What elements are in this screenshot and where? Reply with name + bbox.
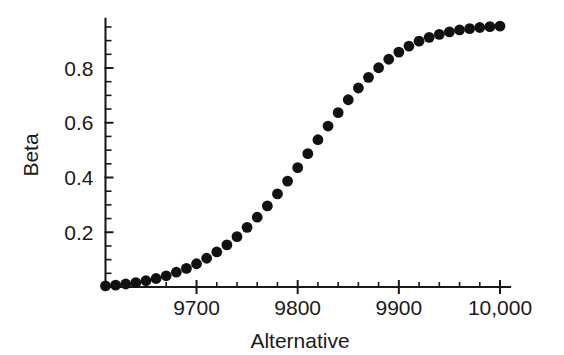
scatter-plot-svg: 97009800990010,000 0.20.40.60.8 Alternat… [0,0,564,355]
data-point [383,54,394,65]
data-point [120,279,131,290]
data-point [333,107,344,118]
data-point [282,176,293,187]
data-point [424,32,435,43]
y-axis-tick-label: 0.2 [64,221,93,244]
data-point [232,231,243,242]
data-point [444,26,455,37]
y-axis-tick-label: 0.4 [64,166,94,189]
y-axis-title: Beta [19,133,42,177]
data-point [110,280,121,291]
data-point-series [100,21,505,292]
data-point [252,212,263,223]
data-point [221,239,232,250]
data-point [353,83,364,94]
x-axis-tick-labels: 97009800990010,000 [173,296,532,319]
data-point [100,281,111,292]
y-axis-tick-label: 0.8 [64,57,93,80]
data-point [161,270,172,281]
y-axis-tick-labels: 0.20.40.60.8 [64,57,94,244]
data-point [211,247,222,258]
x-axis-title: Alternative [250,329,349,352]
data-point [414,36,425,47]
data-point [393,47,404,58]
data-point [454,25,465,36]
data-point [313,134,324,145]
data-point [181,263,192,274]
data-point [434,29,445,40]
chart-figure: 97009800990010,000 0.20.40.60.8 Alternat… [0,0,564,355]
y-axis-tick-label: 0.6 [64,111,93,134]
data-point [302,148,313,159]
data-point [242,222,253,233]
data-point [464,23,475,34]
data-point [201,253,212,264]
data-point [272,189,283,200]
data-point [484,21,495,32]
data-point [474,22,485,33]
data-point [171,267,182,278]
data-point [323,121,334,132]
data-point [141,275,152,286]
data-point [262,201,273,212]
x-axis-tick-label: 9800 [274,296,321,319]
data-point [343,94,354,105]
data-point [404,41,415,52]
x-axis-tick-label: 9900 [375,296,422,319]
data-point [130,277,141,288]
data-point [363,72,374,83]
data-point [373,62,384,73]
data-point [151,273,162,284]
data-point [191,258,202,269]
data-point [495,21,506,32]
x-axis-tick-label: 9700 [173,296,220,319]
x-axis-tick-label: 10,000 [468,296,532,319]
data-point [292,162,303,173]
